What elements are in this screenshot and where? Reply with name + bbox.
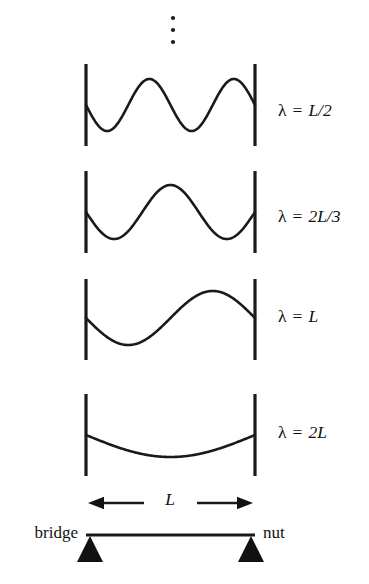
equals-symbol: =: [293, 100, 303, 120]
right-arrow-head: [237, 497, 253, 509]
wavelength-label: λ=2L: [278, 422, 327, 442]
string-fixture: bridge nut: [35, 523, 285, 562]
wavelength-label: λ=2L/3: [278, 206, 341, 226]
bridge-label: bridge: [35, 523, 78, 542]
wavelength-label: λ=L: [278, 306, 318, 326]
wavelength-value: 2L/3: [308, 206, 340, 226]
wavelength-label: λ=L/2: [278, 100, 332, 120]
wavelength-value: L: [307, 306, 318, 326]
vertical-ellipsis-icon: [171, 16, 175, 44]
standing-waves-figure: λ=L/2λ=2L/3λ=Lλ=2L L bridge nut: [0, 0, 369, 584]
standing-wave-curve: [86, 79, 255, 131]
length-dimension: L: [88, 489, 253, 509]
equals-symbol: =: [293, 422, 303, 442]
standing-wave-curve: [86, 435, 255, 457]
left-arrow-head: [88, 497, 104, 509]
lambda-symbol: λ: [278, 100, 287, 120]
lambda-symbol: λ: [278, 306, 287, 326]
equals-symbol: =: [293, 206, 303, 226]
ellipsis-dot: [171, 16, 175, 20]
length-dimension-label: L: [164, 489, 175, 509]
lambda-symbol: λ: [278, 206, 287, 226]
mode-row: λ=2L/3: [86, 171, 341, 253]
lambda-symbol: λ: [278, 422, 287, 442]
standing-wave-curve: [86, 185, 255, 239]
left-arrow-icon: [88, 497, 144, 509]
equals-symbol: =: [293, 306, 303, 326]
right-arrow-icon: [197, 497, 253, 509]
ellipsis-dot: [171, 40, 175, 44]
mode-row: λ=2L: [86, 394, 327, 476]
nut-support-triangle: [238, 536, 264, 562]
wavelength-value: 2L: [308, 422, 326, 442]
wavelength-value: L/2: [307, 100, 332, 120]
standing-waves-diagram: λ=L/2λ=2L/3λ=Lλ=2L L bridge nut: [0, 0, 369, 584]
bridge-support-triangle: [77, 536, 103, 562]
standing-wave-curve: [86, 291, 255, 345]
mode-rows: λ=L/2λ=2L/3λ=Lλ=2L: [86, 64, 341, 476]
mode-row: λ=L: [86, 279, 318, 360]
nut-label: nut: [263, 523, 285, 542]
mode-row: λ=L/2: [86, 64, 332, 146]
ellipsis-dot: [171, 28, 175, 32]
